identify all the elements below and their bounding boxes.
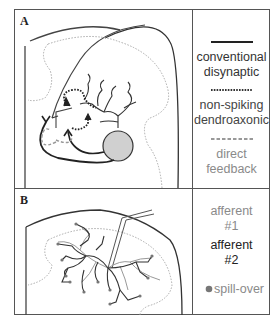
panel-b-label: B: [20, 193, 28, 208]
legend-conventional-disynaptic: conventional disynaptic: [193, 50, 270, 80]
panel-b-drawing: [26, 210, 182, 315]
legend-non-spiking-dendroaxonic: non-spiking dendroaxonic: [193, 98, 270, 128]
legend-direct-feedback: direct feedback: [193, 147, 270, 177]
legend-afferent-1: afferent #1: [193, 204, 270, 234]
panel-a-label: A: [20, 14, 29, 29]
panel-a-drawing: [25, 25, 178, 188]
spill-over-marker: [206, 286, 213, 293]
legend-spill-over: spill-over: [214, 282, 270, 297]
legend-afferent-2: afferent #2: [193, 238, 270, 268]
